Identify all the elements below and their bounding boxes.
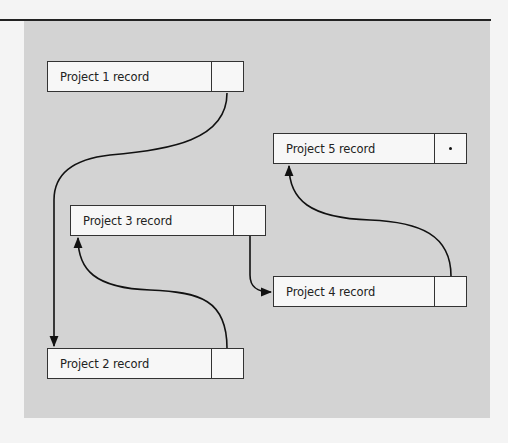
record-project-1: Project 1 record	[47, 61, 244, 92]
null-pointer-icon	[449, 147, 452, 150]
arrow-p4-to-p5	[289, 166, 451, 276]
pointer-cell	[434, 277, 466, 306]
pointer-cell	[211, 62, 243, 91]
record-label: Project 5 record	[274, 134, 434, 163]
record-project-3: Project 3 record	[70, 205, 266, 236]
record-project-4: Project 4 record	[273, 276, 467, 307]
record-label: Project 3 record	[71, 206, 233, 235]
record-label: Project 2 record	[48, 349, 211, 378]
pointer-cell	[211, 349, 243, 378]
record-project-5: Project 5 record	[273, 133, 467, 164]
record-label: Project 4 record	[274, 277, 434, 306]
pointer-cell-null	[434, 134, 466, 163]
arrow-p3-to-p4	[250, 236, 271, 292]
record-project-2: Project 2 record	[47, 348, 244, 379]
record-label: Project 1 record	[48, 62, 211, 91]
pointer-cell	[233, 206, 265, 235]
arrow-p2-to-p3	[78, 238, 227, 348]
